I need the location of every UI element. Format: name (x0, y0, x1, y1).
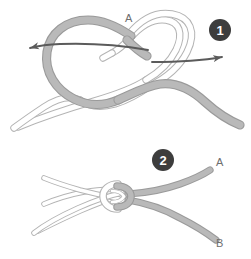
step-1-badge: 1 (209, 19, 231, 41)
step-2-badge: 2 (152, 149, 174, 171)
knot-diagram-figure: A 1 (0, 0, 251, 259)
step-2-badge-number: 2 (159, 153, 166, 168)
white-rope-step1 (14, 14, 192, 128)
rope-end-a-label: A (216, 156, 224, 168)
knot-diagram-canvas: A 1 (0, 0, 251, 259)
step-1-illustration: A 1 (14, 12, 240, 128)
rope-end-b-label: B (216, 237, 223, 249)
crossing-point-label: A (125, 12, 133, 24)
step-1-badge-number: 1 (216, 23, 223, 38)
step-2-illustration: A B 2 (34, 149, 224, 249)
gray-rope-step2 (128, 170, 216, 240)
